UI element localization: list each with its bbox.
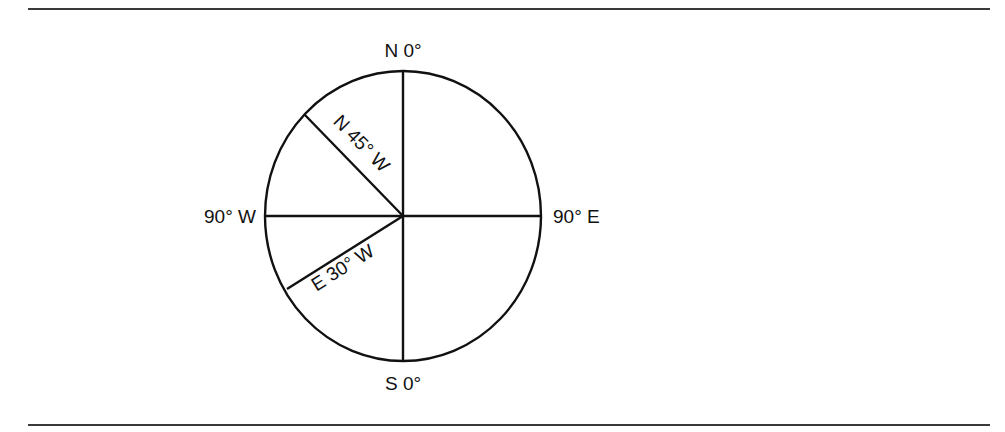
label-north: N 0° (384, 40, 421, 61)
label-south: S 0° (385, 373, 421, 394)
label-east: 90° E (553, 206, 600, 227)
label-bearing-n45w: N 45° W (329, 111, 394, 177)
label-west: 90° W (204, 206, 256, 227)
compass-diagram: N 0° S 0° 90° W 90° E N 45° W E 30° W (0, 0, 1005, 432)
label-bearing-e30w: E 30° W (307, 240, 377, 295)
